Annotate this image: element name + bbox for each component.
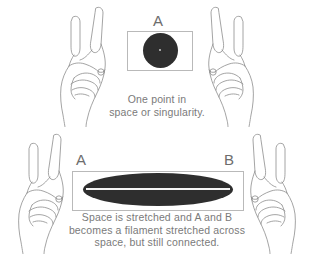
caption-bottom-line-1: Space is stretched and A and B xyxy=(62,211,252,224)
caption-top-line-1: One point in xyxy=(87,93,227,106)
point-label-a-top: A xyxy=(153,13,163,29)
caption-top: One point in space or singularity. xyxy=(87,93,227,118)
physics-diagram-figure: A One point in space or singularity. xyxy=(0,0,314,254)
caption-bottom: Space is stretched and A and B becomes a… xyxy=(62,211,252,249)
caption-bottom-line-2: becomes a filament stretched across xyxy=(62,224,252,237)
point-label-b-bottom: B xyxy=(224,152,234,168)
point-label-a-bottom: A xyxy=(76,152,86,168)
filament-center-line-icon xyxy=(86,188,230,190)
caption-top-line-2: space or singularity. xyxy=(87,106,227,119)
singularity-center-dot-icon xyxy=(159,49,161,51)
caption-bottom-line-3: space, but still connected. xyxy=(62,236,252,249)
panel-singularity: A One point in space or singularity. xyxy=(0,0,314,127)
